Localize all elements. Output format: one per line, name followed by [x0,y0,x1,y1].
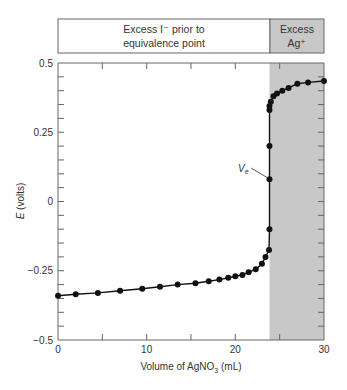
data-point [157,284,163,290]
data-point [305,79,311,85]
equivalence-annotation: Ve [238,163,268,178]
shaded-region [269,63,324,340]
tick-label: 20 [230,344,242,355]
data-point [286,85,292,91]
data-point [266,143,272,149]
data-point [274,90,280,96]
data-point [216,277,222,283]
data-point [225,275,231,281]
data-point [73,291,79,297]
data-point [206,278,212,284]
data-point [232,273,238,279]
tick-label: 0.5 [39,58,53,69]
data-point [321,78,327,84]
data-point [268,99,274,105]
header-left-line2: equivalence point [123,37,205,49]
data-point [262,254,268,260]
tick-label: 30 [318,344,330,355]
data-point [192,280,198,286]
data-point [55,293,61,299]
y-axis-label: E (volts) [15,183,26,220]
ve-leader-line [251,168,268,178]
data-point [239,272,245,278]
tick-label: 10 [141,344,153,355]
header-left-line1: Excess I⁻ prior to [123,23,204,35]
data-point [117,288,123,294]
data-point [139,286,145,292]
x-axis-label: Volume of AgNO3 (mL) [140,361,241,374]
tick-label: −0.5 [33,335,53,346]
data-point [279,88,285,94]
header-right-line1: Excess [280,23,314,35]
data-point [175,282,181,288]
tick-label: 0 [47,196,53,207]
tick-label: 0 [55,344,61,355]
data-point [266,226,272,232]
data-point [253,266,259,272]
data-point [266,247,272,253]
data-point [95,290,101,296]
tick-label: −0.25 [28,265,54,276]
header-right-line2: Ag⁺ [288,37,307,49]
data-point [294,81,300,87]
titration-chart: Excess I⁻ prior to equivalence point Exc… [0,0,347,390]
data-point [259,261,265,267]
data-point [246,269,252,275]
tick-label: 0.25 [34,127,54,138]
region-header: Excess I⁻ prior to equivalence point Exc… [58,19,324,53]
ve-label: Ve [238,163,249,175]
